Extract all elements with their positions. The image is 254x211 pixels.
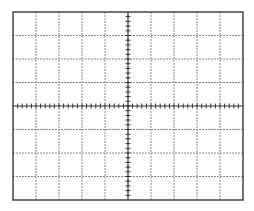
oscilloscope-graticule [0,0,254,211]
